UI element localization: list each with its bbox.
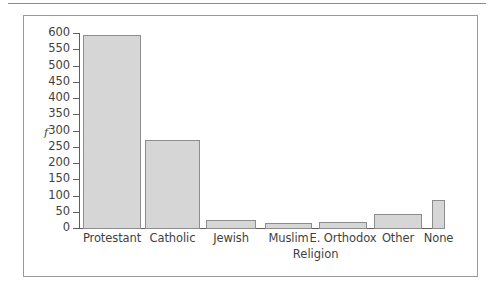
bar-chart-plot-area: 600550500450400350300250200150100500 f P… — [0, 0, 488, 288]
y-axis-tick-mark — [73, 179, 79, 180]
bar-other — [374, 214, 422, 229]
category-label-none: None — [389, 232, 488, 245]
y-axis-tick-label: 450 — [24, 76, 70, 88]
y-axis-title: f — [44, 125, 48, 139]
y-axis-tick-mark — [73, 228, 79, 229]
y-axis-tick-label: 200 — [24, 157, 70, 169]
y-axis-tick-label: 400 — [24, 92, 70, 104]
bar-protestant — [83, 35, 141, 229]
y-axis-tick-mark — [73, 66, 79, 67]
bar-e-orthodox — [319, 222, 367, 229]
y-axis-tick-mark — [73, 114, 79, 115]
y-axis-tick-mark — [73, 98, 79, 99]
y-axis-tick-mark — [73, 196, 79, 197]
y-axis-tick-mark — [73, 212, 79, 213]
x-axis-title: Religion — [256, 248, 376, 261]
y-axis-tick-label: 250 — [24, 141, 70, 153]
y-axis-tick-mark — [73, 131, 79, 132]
y-axis-tick-mark — [73, 33, 79, 34]
y-axis-tick-label: 50 — [24, 206, 70, 218]
bar-catholic — [145, 140, 200, 229]
y-axis-tick-label: 600 — [24, 27, 70, 39]
y-axis-tick-label: 500 — [24, 60, 70, 72]
y-axis-tick-label: 150 — [24, 173, 70, 185]
y-axis-tick-label: 550 — [24, 43, 70, 55]
bar-none — [432, 200, 445, 229]
y-axis-tick-mark — [73, 147, 79, 148]
y-axis-tick-label: 100 — [24, 190, 70, 202]
y-axis-line — [79, 33, 80, 229]
y-axis-tick-label: 350 — [24, 108, 70, 120]
y-axis-tick-mark — [73, 163, 79, 164]
bar-jewish — [206, 220, 256, 229]
bar-muslim — [265, 223, 312, 229]
y-axis-tick-mark — [73, 49, 79, 50]
y-axis-tick-mark — [73, 82, 79, 83]
